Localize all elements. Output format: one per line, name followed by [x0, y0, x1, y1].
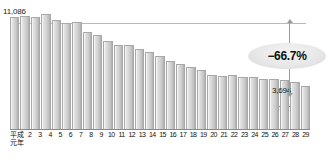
peak-value-label: 11,086 [3, 7, 26, 16]
x-tick-label: 25 [260, 131, 269, 139]
x-tick-label: 15 [158, 131, 167, 139]
bar [20, 16, 29, 129]
x-tick-label: 18 [189, 131, 198, 139]
x-tick-label: 28 [291, 131, 300, 139]
bar [301, 86, 310, 129]
x-tick-label: 6 [66, 131, 75, 139]
bar [93, 35, 102, 129]
x-tick-label: 9 [97, 131, 106, 139]
bar [72, 22, 81, 129]
bar-chart: 11,086 3,694 −66.7% 平成元年2345678910111213… [0, 0, 328, 167]
bar [31, 17, 40, 129]
x-tick-label: 2 [25, 131, 34, 139]
bar [10, 17, 19, 129]
era-label-line2: 元年 [10, 139, 24, 147]
bar [166, 61, 175, 129]
bar [145, 52, 154, 129]
x-tick-label: 27 [280, 131, 289, 139]
x-tick-label: 19 [199, 131, 208, 139]
bar [186, 67, 195, 129]
x-tick-label: 3 [35, 131, 44, 139]
arrow-head-down-icon [287, 93, 293, 97]
bar [197, 70, 206, 129]
bar [290, 82, 299, 129]
x-tick-label: 21 [219, 131, 228, 139]
bar [124, 45, 133, 129]
bar [155, 56, 164, 129]
change-badge: −66.7% [248, 43, 326, 69]
x-tick-label: 16 [168, 131, 177, 139]
x-axis-labels: 平成元年234567891011121314151617181920212223… [10, 131, 310, 165]
x-tick-label: 13 [137, 131, 146, 139]
plot-area [10, 14, 310, 129]
bar [218, 76, 227, 129]
x-tick-label: 17 [178, 131, 187, 139]
bar-series [10, 14, 310, 129]
bar [83, 32, 92, 129]
x-tick-label: 22 [229, 131, 238, 139]
bar [41, 14, 50, 129]
x-tick-era: 平成元年 [10, 131, 24, 147]
bar [176, 64, 185, 129]
bar [259, 79, 268, 129]
x-tick-label: 20 [209, 131, 218, 139]
x-tick-label: 7 [76, 131, 85, 139]
bar [135, 49, 144, 129]
bar [62, 23, 71, 129]
bar [249, 77, 258, 129]
bar [103, 41, 112, 129]
bar [228, 75, 237, 129]
x-tick-label: 5 [56, 131, 65, 139]
bar [52, 20, 61, 129]
x-tick-label: 29 [301, 131, 310, 139]
x-tick-label: 14 [148, 131, 157, 139]
x-tick-label: 23 [240, 131, 249, 139]
x-tick-label: 8 [86, 131, 95, 139]
bar [207, 75, 216, 129]
x-tick-label: 24 [250, 131, 259, 139]
x-tick-label: 26 [270, 131, 279, 139]
era-label-line1: 平成 [10, 131, 24, 139]
bar [238, 77, 247, 130]
x-tick-label: 12 [127, 131, 136, 139]
x-axis-line [10, 129, 310, 130]
x-tick-label: 10 [107, 131, 116, 139]
x-tick-label: 4 [45, 131, 54, 139]
arrow-head-up-icon [287, 19, 293, 23]
bar [114, 45, 123, 129]
x-tick-label: 11 [117, 131, 126, 139]
